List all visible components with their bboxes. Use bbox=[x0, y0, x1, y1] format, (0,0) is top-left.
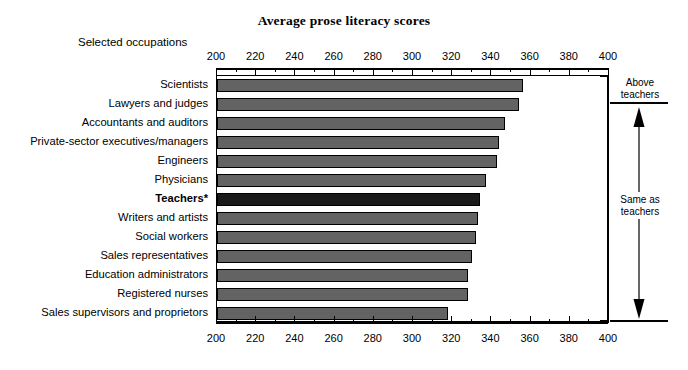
x-axis-minor-tick bbox=[353, 319, 354, 323]
x-axis-tick-label: 320 bbox=[442, 332, 460, 344]
bar-row bbox=[217, 95, 607, 114]
bar bbox=[217, 136, 499, 149]
bar-row bbox=[217, 152, 607, 171]
x-axis-major-tick bbox=[255, 68, 256, 75]
category-label: Registered nurses bbox=[117, 284, 212, 303]
same-as-teachers-divider bbox=[610, 320, 668, 322]
x-axis-tick-label: 280 bbox=[364, 332, 382, 344]
category-label: Social workers bbox=[135, 227, 212, 246]
x-axis-major-tick bbox=[216, 316, 217, 323]
x-axis-tick-label: 380 bbox=[560, 50, 578, 62]
x-axis-major-tick bbox=[373, 316, 374, 323]
x-axis-tick-label: 200 bbox=[207, 50, 225, 62]
plot-area bbox=[216, 75, 608, 322]
x-axis-minor-tick bbox=[275, 319, 276, 323]
x-axis-minor-tick bbox=[314, 68, 315, 72]
category-label: Teachers* bbox=[155, 189, 212, 208]
category-label: Sales supervisors and proprietors bbox=[41, 303, 212, 322]
x-axis-tick-label: 300 bbox=[403, 332, 421, 344]
category-label: Physicians bbox=[155, 170, 212, 189]
x-axis-minor-tick bbox=[471, 68, 472, 72]
x-axis-major-tick bbox=[490, 68, 491, 75]
x-axis-major-tick bbox=[294, 316, 295, 323]
bar bbox=[217, 212, 478, 225]
side-annotation-panel: Above teachers Same as teachers bbox=[608, 75, 670, 322]
x-axis-tick-label: 340 bbox=[481, 332, 499, 344]
x-axis-major-tick bbox=[373, 68, 374, 75]
x-axis-tick-labels-bottom: 200220240260280300320340360380400 bbox=[216, 332, 608, 346]
x-axis-tick-label: 400 bbox=[599, 332, 617, 344]
bar bbox=[217, 231, 476, 244]
bar-row bbox=[217, 209, 607, 228]
above-teachers-divider bbox=[610, 102, 668, 104]
x-axis-major-tick bbox=[490, 316, 491, 323]
x-axis-major-tick bbox=[569, 316, 570, 323]
x-axis-minor-tick bbox=[314, 319, 315, 323]
x-axis-tick-label: 220 bbox=[246, 332, 264, 344]
x-axis-minor-tick bbox=[392, 68, 393, 72]
category-labels: ScientistsLawyers and judgesAccountants … bbox=[0, 75, 212, 322]
x-axis-minor-tick bbox=[510, 68, 511, 72]
bar-row bbox=[217, 76, 607, 95]
bar bbox=[217, 98, 519, 111]
bar bbox=[217, 155, 497, 168]
x-axis-minor-tick bbox=[392, 319, 393, 323]
x-axis-tick-label: 260 bbox=[324, 50, 342, 62]
x-axis-minor-tick bbox=[236, 68, 237, 72]
x-axis-tick-label: 360 bbox=[520, 332, 538, 344]
bar-row bbox=[217, 228, 607, 247]
x-axis-minor-tick bbox=[549, 68, 550, 72]
x-axis-tick-label: 340 bbox=[481, 50, 499, 62]
x-axis-major-tick bbox=[255, 316, 256, 323]
x-axis-major-tick bbox=[530, 316, 531, 323]
bar-row bbox=[217, 171, 607, 190]
category-label: Accountants and auditors bbox=[82, 113, 212, 132]
side-panel-top-stub bbox=[600, 75, 608, 77]
x-axis-tick-label: 300 bbox=[403, 50, 421, 62]
x-axis-major-tick bbox=[412, 68, 413, 75]
x-axis-tick-label: 400 bbox=[599, 50, 617, 62]
bar-row bbox=[217, 247, 607, 266]
bar-row bbox=[217, 190, 607, 209]
bar bbox=[217, 193, 480, 206]
x-axis-tick-label: 360 bbox=[520, 50, 538, 62]
x-axis-tick-label: 240 bbox=[285, 332, 303, 344]
category-label: Scientists bbox=[160, 75, 212, 94]
x-axis-top bbox=[216, 68, 608, 69]
x-axis-minor-tick bbox=[588, 68, 589, 72]
same-as-teachers-line1: Same as bbox=[620, 194, 659, 205]
above-teachers-line1: Above bbox=[626, 77, 654, 88]
x-axis-bottom bbox=[216, 322, 608, 323]
bar-row bbox=[217, 114, 607, 133]
x-axis-minor-tick bbox=[275, 68, 276, 72]
x-axis-minor-tick bbox=[510, 319, 511, 323]
bar bbox=[217, 117, 505, 130]
bar bbox=[217, 174, 486, 187]
category-label: Writers and artists bbox=[118, 208, 212, 227]
x-axis-major-tick bbox=[294, 68, 295, 75]
bar bbox=[217, 288, 468, 301]
x-axis-major-tick bbox=[451, 316, 452, 323]
chart-container: Average prose literacy scores Selected o… bbox=[0, 0, 688, 370]
above-teachers-line2: teachers bbox=[621, 89, 659, 100]
x-axis-major-tick bbox=[569, 68, 570, 75]
x-axis-minor-tick bbox=[432, 319, 433, 323]
x-axis-minor-tick bbox=[432, 68, 433, 72]
x-axis-minor-tick bbox=[471, 319, 472, 323]
x-axis-minor-tick bbox=[549, 319, 550, 323]
x-axis-major-tick bbox=[412, 316, 413, 323]
bar-row bbox=[217, 133, 607, 152]
category-label: Lawyers and judges bbox=[108, 94, 212, 113]
bar-series bbox=[217, 76, 607, 321]
category-label: Private-sector executives/managers bbox=[30, 132, 212, 151]
x-axis-tick-label: 240 bbox=[285, 50, 303, 62]
bar-row bbox=[217, 285, 607, 304]
above-teachers-label: Above teachers bbox=[611, 77, 669, 100]
x-axis-major-tick bbox=[608, 68, 609, 75]
x-axis-tick-label: 200 bbox=[207, 332, 225, 344]
y-axis-title: Selected occupations bbox=[78, 36, 187, 48]
same-as-teachers-label: Same as teachers bbox=[611, 192, 669, 219]
x-axis-tick-labels-top: 200220240260280300320340360380400 bbox=[216, 50, 608, 64]
x-axis-minor-tick bbox=[588, 319, 589, 323]
x-axis-major-tick bbox=[334, 316, 335, 323]
